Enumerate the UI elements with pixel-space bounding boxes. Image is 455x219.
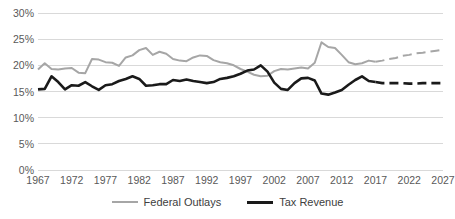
line-federal-outlays-actual [38, 42, 376, 76]
x-axis-tick-1977: 1977 [94, 174, 117, 186]
legend-item-federal-outlays[interactable]: Federal Outlays [112, 196, 222, 208]
x-axis-tick-1992: 1992 [195, 174, 218, 186]
legend-line-icon-federal-outlays [112, 201, 138, 203]
y-axis-tick-5: 5% [0, 138, 34, 150]
chart-legend: Federal Outlays Tax Revenue [0, 196, 455, 208]
y-axis-tick-10: 10% [0, 112, 34, 124]
x-axis-tick-2017: 2017 [364, 174, 387, 186]
x-axis-tick-1972: 1972 [60, 174, 83, 186]
y-axis-tick-20: 20% [0, 59, 34, 71]
series-lines [38, 42, 443, 94]
y-axis-tick-15: 15% [0, 86, 34, 98]
x-axis-tick-2012: 2012 [330, 174, 353, 186]
x-axis-tick-1997: 1997 [229, 174, 252, 186]
x-axis-tick-2027: 2027 [431, 174, 454, 186]
x-axis-tick-2002: 2002 [263, 174, 286, 186]
legend-line-icon-tax-revenue [247, 201, 273, 204]
line-tax-revenue-actual [38, 65, 376, 94]
legend-item-tax-revenue[interactable]: Tax Revenue [247, 196, 343, 208]
line-federal-outlays-projected [376, 50, 444, 62]
y-axis-tick-30: 30% [0, 7, 34, 19]
legend-label-tax-revenue: Tax Revenue [279, 196, 343, 208]
line-tax-revenue-projected [376, 82, 444, 84]
chart-container: 0%5%10%15%20%25%30% 19671972197719821987… [0, 0, 455, 219]
x-axis-tick-2007: 2007 [296, 174, 319, 186]
gridlines [38, 13, 443, 170]
chart-plot-area [0, 0, 455, 219]
x-axis-tick-1987: 1987 [161, 174, 184, 186]
legend-label-federal-outlays: Federal Outlays [144, 196, 222, 208]
x-axis-tick-2022: 2022 [398, 174, 421, 186]
x-axis-tick-1967: 1967 [26, 174, 49, 186]
y-axis-tick-25: 25% [0, 33, 34, 45]
x-axis-tick-1982: 1982 [128, 174, 151, 186]
